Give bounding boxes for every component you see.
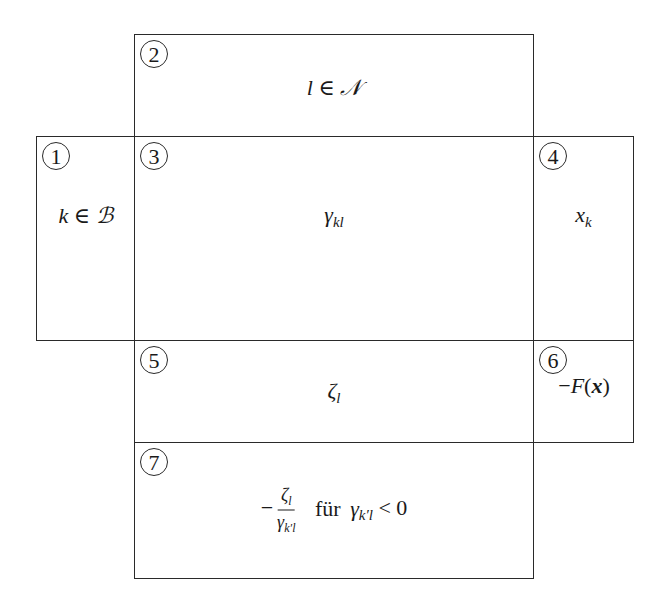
box-number-1: 1 xyxy=(42,142,70,170)
objective-value-label: −F(x) xyxy=(558,373,610,399)
box-number-2: 2 xyxy=(140,40,168,68)
box-number-6: 6 xyxy=(539,346,567,374)
box-number-7: 7 xyxy=(140,448,168,476)
basic-set-label: k ∈ ℬ xyxy=(58,203,112,229)
box-number-5: 5 xyxy=(140,346,168,374)
box-coefficients: 3 γkl xyxy=(134,136,534,341)
ratio-test-formula: −ζlγk′l für γk′l < 0 xyxy=(261,485,408,536)
box-number-3: 3 xyxy=(140,142,168,170)
box-basic-indices: 1 k ∈ ℬ xyxy=(36,136,135,341)
box-objective-value: 6 −F(x) xyxy=(533,340,634,443)
box-ratio-test: 7 −ζlγk′l für γk′l < 0 xyxy=(134,442,534,579)
box-number-4: 4 xyxy=(539,142,567,170)
ratio-fraction: ζlγk′l xyxy=(277,485,295,536)
box-nonbasic-indices: 2 l ∈ 𝒩 xyxy=(134,34,534,137)
basic-values-label: xk xyxy=(575,202,591,231)
box-basic-values: 4 xk xyxy=(533,136,634,341)
box-reduced-costs: 5 ζl xyxy=(134,340,534,443)
coefficient-label: γkl xyxy=(324,202,344,231)
reduced-costs-label: ζl xyxy=(327,378,340,407)
nonbasic-set-label: l ∈ 𝒩 xyxy=(307,75,361,101)
